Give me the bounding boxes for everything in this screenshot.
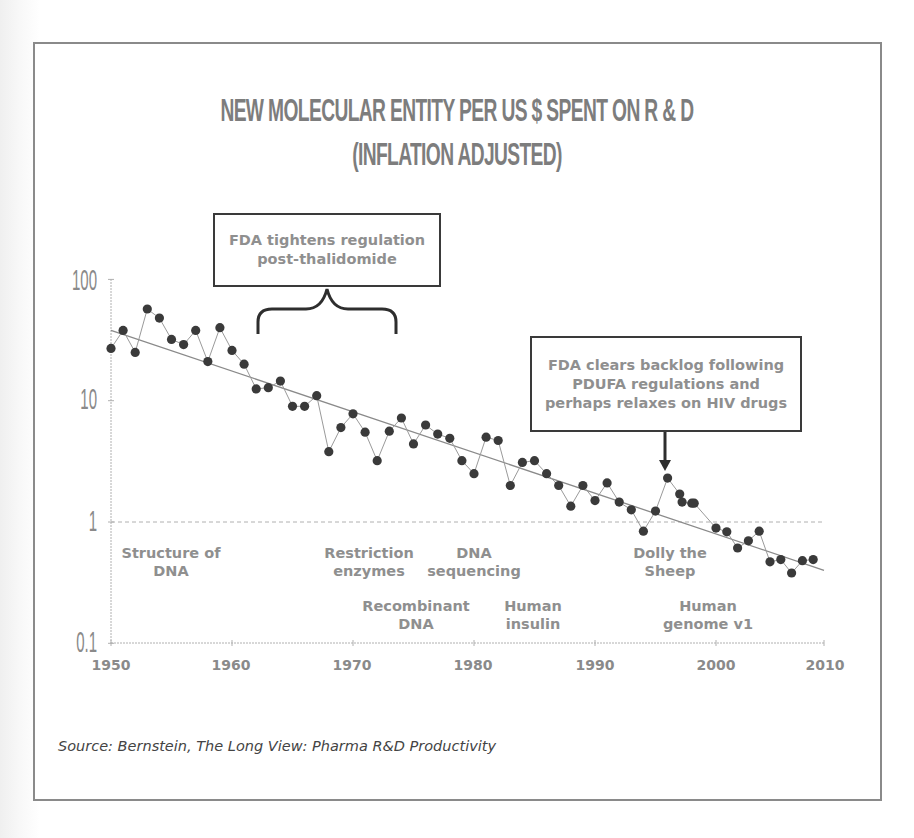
data-point <box>639 527 648 536</box>
source-note: Source: Bernstein, The Long View: Pharma… <box>58 738 496 754</box>
data-point <box>711 524 720 533</box>
callout-line2: post-thalidomide <box>257 250 397 269</box>
data-point <box>312 391 321 400</box>
x-tick-label-2010: 2010 <box>795 657 855 673</box>
data-point <box>765 557 774 566</box>
x-tick-label-1980: 1980 <box>443 657 503 673</box>
event-line1: Restriction <box>324 544 413 562</box>
data-point <box>385 427 394 436</box>
event-line2: Sheep <box>633 562 707 580</box>
x-tick-label-1950: 1950 <box>81 657 141 673</box>
event-line2: genome v1 <box>663 615 753 633</box>
data-point <box>506 481 515 490</box>
data-point <box>675 489 684 498</box>
data-point <box>722 527 731 536</box>
data-point <box>457 456 466 465</box>
data-point <box>566 502 575 511</box>
data-point <box>615 498 624 507</box>
data-point <box>361 428 370 437</box>
y-tick-label-0-1: 0.1 <box>67 627 97 657</box>
event-label-structure-of-dna: Structure of DNA <box>121 544 220 580</box>
x-tick-label-1990: 1990 <box>565 657 625 673</box>
data-point <box>787 568 796 577</box>
event-line1: Recombinant <box>362 597 469 615</box>
data-point <box>252 384 261 393</box>
callout-line1: FDA clears backlog following <box>548 356 784 375</box>
data-point <box>409 439 418 448</box>
data-point <box>324 447 333 456</box>
event-line1: Dolly the <box>633 544 707 562</box>
data-point <box>530 456 539 465</box>
callout-line1: FDA tightens regulation <box>229 231 425 250</box>
callout-line2: PDUFA regulations and <box>572 375 760 394</box>
data-point <box>179 340 188 349</box>
data-point <box>518 458 527 467</box>
callout-fda-clears-backlog: FDA clears backlog following PDUFA regul… <box>530 336 802 432</box>
data-point <box>627 505 636 514</box>
data-point <box>167 335 176 344</box>
data-point <box>542 469 551 478</box>
event-line2: DNA <box>121 562 220 580</box>
event-label-dna-sequencing: DNA sequencing <box>427 544 521 580</box>
data-point <box>300 402 309 411</box>
data-point <box>119 326 128 335</box>
data-point <box>494 436 503 445</box>
data-point <box>603 478 612 487</box>
data-point <box>421 420 430 429</box>
x-tick-label-1960: 1960 <box>201 657 261 673</box>
event-line1: Structure of <box>121 544 220 562</box>
event-line1: Human <box>504 597 562 615</box>
event-label-recombinant-dna: Recombinant DNA <box>362 597 469 633</box>
event-line1: Human <box>663 597 753 615</box>
x-tick-label-1970: 1970 <box>322 657 382 673</box>
data-point <box>373 456 382 465</box>
event-label-human-insulin: Human insulin <box>504 597 562 633</box>
brace-icon <box>258 289 396 334</box>
data-point <box>348 409 357 418</box>
arrow-down-icon <box>659 431 671 471</box>
event-line2: DNA <box>362 615 469 633</box>
event-label-human-genome: Human genome v1 <box>663 597 753 633</box>
event-line1: DNA <box>427 544 521 562</box>
data-point <box>590 496 599 505</box>
data-point <box>276 377 285 386</box>
y-tick-label-100: 100 <box>67 265 97 295</box>
data-point <box>651 507 660 516</box>
data-point <box>690 499 699 508</box>
data-point <box>809 555 818 564</box>
data-point <box>215 323 224 332</box>
data-point <box>433 430 442 439</box>
data-point <box>191 326 200 335</box>
data-point <box>678 498 687 507</box>
event-label-restriction-enzymes: Restriction enzymes <box>324 544 413 580</box>
event-line2: enzymes <box>324 562 413 580</box>
data-point <box>227 346 236 355</box>
data-point <box>131 348 140 357</box>
data-point <box>733 543 742 552</box>
data-point <box>106 344 115 353</box>
data-point <box>264 383 273 392</box>
data-point <box>776 555 785 564</box>
data-point <box>744 536 753 545</box>
data-point <box>554 481 563 490</box>
data-point <box>143 304 152 313</box>
event-line2: insulin <box>504 615 562 633</box>
data-point <box>469 469 478 478</box>
callout-line3: perhaps relaxes on HIV drugs <box>545 394 787 413</box>
data-point <box>288 402 297 411</box>
y-tick-label-10: 10 <box>67 384 97 414</box>
data-point <box>445 434 454 443</box>
data-point <box>578 481 587 490</box>
event-line2: sequencing <box>427 562 521 580</box>
data-point <box>482 433 491 442</box>
data-point <box>397 413 406 422</box>
event-label-dolly-the-sheep: Dolly the Sheep <box>633 544 707 580</box>
data-point <box>798 556 807 565</box>
data-point <box>155 314 164 323</box>
data-point <box>663 474 672 483</box>
x-tick-label-2000: 2000 <box>686 657 746 673</box>
data-point <box>240 360 249 369</box>
data-point <box>755 527 764 536</box>
data-point <box>203 357 212 366</box>
data-point <box>336 423 345 432</box>
